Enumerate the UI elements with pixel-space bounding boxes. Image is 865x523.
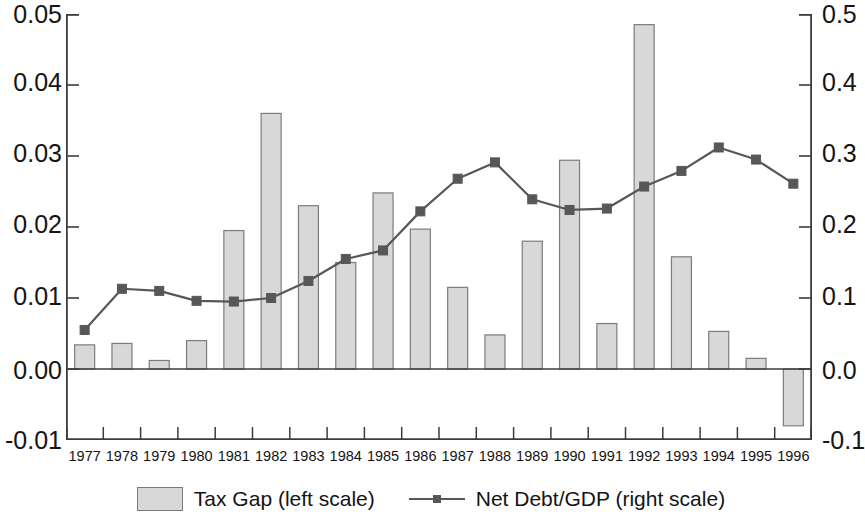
left-axis-tick-label: -0.01 xyxy=(5,428,62,453)
bar-1989 xyxy=(522,241,542,369)
line-marker-1993 xyxy=(677,166,686,175)
line-marker-1990 xyxy=(565,205,574,214)
bar-1978 xyxy=(112,343,132,369)
bar-series-layer xyxy=(75,25,804,426)
line-marker-1981 xyxy=(229,297,238,306)
x-axis-label-1985: 1985 xyxy=(363,449,403,464)
bar-1992 xyxy=(634,25,654,369)
x-axis-label-1983: 1983 xyxy=(288,449,328,464)
bar-1988 xyxy=(485,335,505,369)
x-axis-label-1995: 1995 xyxy=(736,449,776,464)
x-axis-label-1981: 1981 xyxy=(214,449,254,464)
bar-1983 xyxy=(298,206,318,369)
legend-entry-tax-gap: Tax Gap (left scale) xyxy=(137,487,375,511)
bar-1993 xyxy=(671,257,691,369)
line-marker-1996 xyxy=(789,179,798,188)
x-axis-label-1990: 1990 xyxy=(550,449,590,464)
x-axis-label-1989: 1989 xyxy=(512,449,552,464)
axis-frame-layer xyxy=(67,14,811,440)
left-axis-tick-label: 0.04 xyxy=(13,70,62,95)
line-swatch-icon xyxy=(409,492,465,506)
legend-label: Net Debt/GDP (right scale) xyxy=(476,488,725,510)
right-axis-tick-label: 0.5 xyxy=(822,2,857,27)
legend-label: Tax Gap (left scale) xyxy=(194,488,375,510)
line-marker-1984 xyxy=(341,254,350,263)
line-marker-1995 xyxy=(752,155,761,164)
left-axis-tick-label: 0.00 xyxy=(13,358,62,383)
line-marker-1979 xyxy=(155,286,164,295)
left-axis-tick-label: 0.01 xyxy=(13,284,62,309)
line-marker-1980 xyxy=(192,296,201,305)
line-marker-1994 xyxy=(714,143,723,152)
x-axis-label-1980: 1980 xyxy=(177,449,217,464)
x-axis-label-1996: 1996 xyxy=(773,449,813,464)
x-axis-label-1978: 1978 xyxy=(102,449,142,464)
bar-1982 xyxy=(261,113,281,369)
bar-1987 xyxy=(448,287,468,369)
line-marker-1978 xyxy=(117,284,126,293)
bar-1984 xyxy=(336,263,356,370)
x-axis-label-1979: 1979 xyxy=(139,449,179,464)
left-axis-tick-label: 0.03 xyxy=(13,141,62,166)
legend-entry-net-debt-gdp: Net Debt/GDP (right scale) xyxy=(409,488,725,510)
line-marker-1988 xyxy=(490,158,499,167)
chart-legend: Tax Gap (left scale) Net Debt/GDP (right… xyxy=(0,487,862,511)
chart-svg xyxy=(66,14,812,440)
bar-1985 xyxy=(373,193,393,369)
line-marker-1985 xyxy=(379,246,388,255)
right-axis-tick-label: 0.1 xyxy=(822,284,857,309)
plot-area xyxy=(66,14,812,440)
bar-1991 xyxy=(597,324,617,369)
x-axis-label-1986: 1986 xyxy=(400,449,440,464)
line-marker-1986 xyxy=(416,207,425,216)
bar-1994 xyxy=(709,331,729,369)
left-axis-tick-label: 0.02 xyxy=(13,212,62,237)
right-axis-tick-label: 0.2 xyxy=(822,212,857,237)
x-axis-label-1988: 1988 xyxy=(475,449,515,464)
bar-1980 xyxy=(187,341,207,369)
bar-1979 xyxy=(149,360,169,369)
line-marker-1977 xyxy=(80,325,89,334)
x-axis-label-1987: 1987 xyxy=(438,449,478,464)
bar-1995 xyxy=(746,358,766,369)
left-axis-tick-label: 0.05 xyxy=(13,2,62,27)
bar-1986 xyxy=(410,229,430,369)
line-marker-1987 xyxy=(453,174,462,183)
right-axis-tick-label: 0.0 xyxy=(822,358,857,383)
line-marker-1982 xyxy=(267,294,276,303)
line-marker-1989 xyxy=(528,195,537,204)
x-axis-label-1977: 1977 xyxy=(65,449,105,464)
x-axis-label-1984: 1984 xyxy=(326,449,366,464)
x-axis-label-1991: 1991 xyxy=(587,449,627,464)
bar-swatch-icon xyxy=(137,487,183,511)
x-axis-label-1993: 1993 xyxy=(661,449,701,464)
right-axis-tick-label: 0.4 xyxy=(822,70,857,95)
line-marker-1983 xyxy=(304,276,313,285)
bar-1977 xyxy=(75,345,95,369)
x-axis-label-1992: 1992 xyxy=(624,449,664,464)
line-marker-1991 xyxy=(602,204,611,213)
x-axis-label-1982: 1982 xyxy=(251,449,291,464)
bar-1990 xyxy=(560,160,580,369)
right-axis-tick-label: -0.1 xyxy=(822,428,865,453)
cropped-title-band xyxy=(0,0,862,5)
line-marker-1992 xyxy=(640,182,649,191)
right-axis-tick-label: 0.3 xyxy=(822,141,857,166)
bar-1996 xyxy=(783,369,803,426)
x-axis-label-1994: 1994 xyxy=(699,449,739,464)
